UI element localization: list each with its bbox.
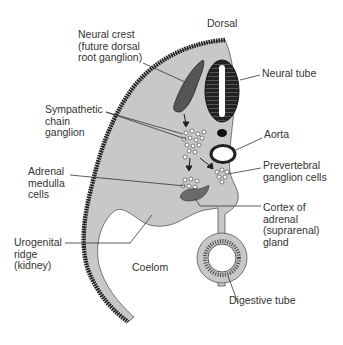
label-adrenal-medulla: Adrenal medulla cells [28, 166, 65, 201]
label-neural-crest: Neural crest (future dorsal root ganglio… [78, 29, 142, 64]
label-coelom: Coelom [132, 262, 168, 274]
aorta [211, 146, 235, 163]
label-neural-tube: Neural tube [262, 68, 316, 80]
label-adrenal-cortex: Cortex of adrenal (suprarenal) gland [263, 202, 320, 248]
notochord [217, 129, 227, 137]
label-prevertebral: Prevertebral ganglion cells [263, 160, 327, 183]
label-digestive-tube: Digestive tube [229, 295, 296, 307]
label-urogenital-ridge: Urogenital ridge (kidney) [14, 237, 62, 272]
label-sympathetic-chain: Sympathetic chain ganglion [45, 104, 103, 139]
neural-canal [219, 65, 225, 117]
label-dorsal: Dorsal [207, 18, 237, 30]
digestive-lumen [208, 244, 236, 272]
embryo-cross-section-diagram: Dorsal Neural crest (future dorsal root … [0, 0, 343, 345]
label-aorta: Aorta [264, 129, 289, 141]
